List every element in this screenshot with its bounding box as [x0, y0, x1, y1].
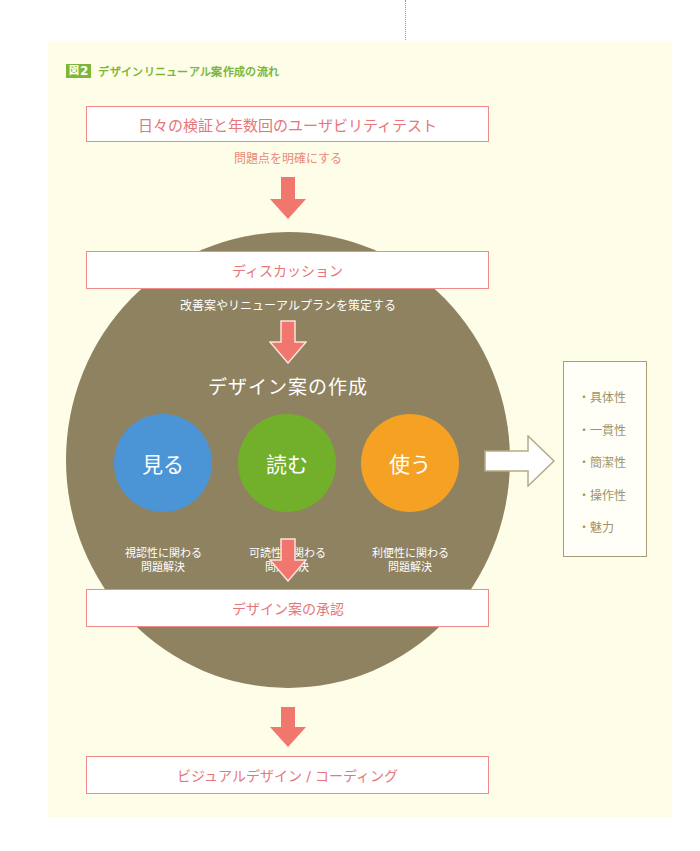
see-caption-line2: 問題解決 [103, 561, 223, 575]
down-arrow-icon [269, 538, 307, 582]
criteria-item: ・魅力 [578, 518, 614, 535]
use-caption-line1: 利便性に関わる [350, 547, 470, 561]
use-caption-line2: 問題解決 [350, 561, 470, 575]
dotted-guide-line [405, 0, 406, 40]
criteria-box: ・具体性 ・一貫性 ・簡潔性 ・操作性 ・魅力 [563, 361, 647, 557]
step-discussion-label: ディスカッション [232, 260, 343, 280]
figure-badge-number: 2 [80, 64, 88, 78]
right-arrow-icon [484, 435, 556, 487]
step-discussion-note: 改善案やリニューアルプランを策定する [86, 296, 489, 313]
down-arrow-icon [269, 320, 307, 364]
criteria-item: ・操作性 [578, 486, 626, 503]
read-circle: 読む [238, 414, 336, 512]
step-approval-box: デザイン案の承認 [86, 589, 489, 627]
figure-badge-prefix: 図 [69, 64, 79, 78]
read-label: 読む [266, 448, 308, 478]
criteria-item: ・具体性 [578, 388, 626, 405]
step-visual-design-box: ビジュアルデザイン / コーディング [86, 756, 489, 794]
step-approval-label: デザイン案の承認 [232, 598, 344, 618]
figure-panel: 図 2 デザインリニューアル案作成の流れ 日々の検証と年数回のユーザビリティテス… [48, 42, 672, 817]
use-caption: 利便性に関わる 問題解決 [350, 547, 470, 575]
step-usability-test-note: 問題点を明確にする [86, 149, 489, 166]
see-circle: 見る [114, 414, 212, 512]
see-caption: 視認性に関わる 問題解決 [103, 547, 223, 575]
step-discussion-box: ディスカッション [86, 251, 489, 289]
see-label: 見る [142, 448, 184, 478]
figure-header: 図 2 デザインリニューアル案作成の流れ [66, 63, 279, 79]
figure-title: デザインリニューアル案作成の流れ [98, 63, 279, 79]
criteria-item: ・一貫性 [578, 421, 626, 438]
down-arrow-icon [270, 707, 306, 747]
figure-badge: 図 2 [66, 64, 91, 78]
criteria-item: ・簡潔性 [578, 453, 626, 470]
step-usability-test-box: 日々の検証と年数回のユーザビリティテスト [86, 106, 489, 142]
use-circle: 使う [361, 414, 459, 512]
down-arrow-icon [270, 177, 306, 219]
design-creation-title: デザイン案の作成 [86, 372, 489, 399]
see-caption-line1: 視認性に関わる [103, 547, 223, 561]
use-label: 使う [389, 448, 431, 478]
step-usability-test-label: 日々の検証と年数回のユーザビリティテスト [138, 114, 437, 135]
step-visual-design-label: ビジュアルデザイン / コーディング [177, 765, 399, 785]
